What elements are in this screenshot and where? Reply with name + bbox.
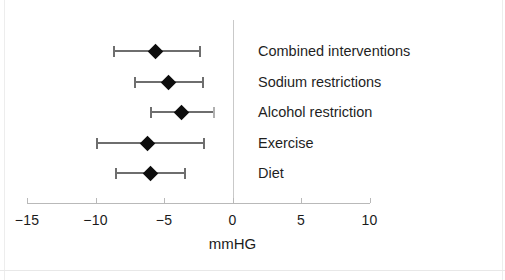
ci-lower-cap — [113, 46, 115, 57]
ci-lower-cap — [134, 77, 136, 88]
ci-upper-cap — [203, 138, 205, 149]
x-axis-tick — [301, 198, 302, 203]
x-axis-tick — [164, 198, 165, 203]
estimate-marker — [143, 166, 159, 182]
row-label-diet: Diet — [258, 163, 284, 183]
forest-row: Diet — [0, 162, 505, 184]
ci-upper-cap — [202, 77, 204, 88]
x-tick-label-5: 5 — [278, 212, 324, 228]
row-label-exercise: Exercise — [258, 133, 314, 153]
estimate-marker — [140, 135, 156, 151]
forest-row: Alcohol restriction — [0, 101, 505, 123]
ci-lower-cap — [96, 138, 98, 149]
x-tick-label--15: −15 — [4, 212, 50, 228]
ci-upper-cap — [199, 46, 201, 57]
x-tick-label-0: 0 — [210, 212, 256, 228]
x-tick-label--10: −10 — [73, 212, 119, 228]
x-tick-label-10: 10 — [347, 212, 393, 228]
forest-row: Sodium restrictions — [0, 71, 505, 93]
x-axis-tick — [96, 198, 97, 203]
plot-area: Combined interventions Sodium restrictio… — [0, 0, 505, 280]
estimate-marker — [148, 44, 164, 60]
x-axis-tick — [233, 198, 234, 203]
x-tick-label--5: −5 — [141, 212, 187, 228]
forest-row: Combined interventions — [0, 40, 505, 62]
forest-plot-figure: Combined interventions Sodium restrictio… — [0, 0, 505, 280]
estimate-marker — [174, 105, 190, 121]
x-axis-tick — [370, 198, 371, 203]
row-label-combined-interventions: Combined interventions — [258, 41, 410, 61]
ci-lower-cap — [115, 168, 117, 179]
ci-lower-cap — [150, 107, 152, 118]
forest-row: Exercise — [0, 132, 505, 154]
x-axis-tick — [27, 198, 28, 203]
x-axis-line — [27, 203, 370, 204]
ci-upper-cap — [184, 168, 186, 179]
row-label-sodium-restrictions: Sodium restrictions — [258, 72, 381, 92]
x-axis-title: mmHG — [173, 235, 293, 253]
ci-upper-cap — [213, 107, 215, 118]
estimate-marker — [160, 74, 176, 90]
row-label-alcohol-restriction: Alcohol restriction — [258, 102, 372, 122]
